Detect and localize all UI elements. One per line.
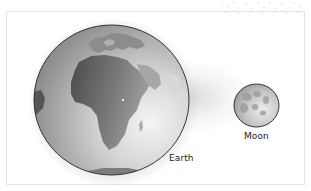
starfield-decoration: [218, 0, 304, 16]
earth-globe-icon: [33, 24, 190, 176]
moon-icon: [233, 83, 280, 128]
moon-label: Moon: [244, 131, 269, 141]
earth-label: Earth: [169, 153, 194, 163]
